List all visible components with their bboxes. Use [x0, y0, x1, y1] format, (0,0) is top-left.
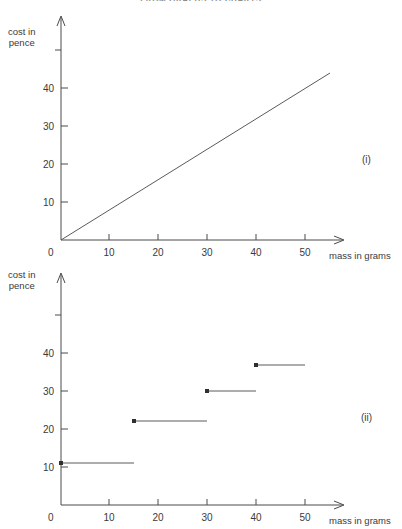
figure-ii-caption-label: (ii): [361, 412, 372, 423]
figure-ii-y-tick-label-30: 30: [43, 386, 55, 397]
figure-ii-step-point-2: [132, 419, 136, 423]
figure-ii-origin-label: 0: [48, 512, 54, 523]
figure-ii-step-point-4: [254, 363, 258, 367]
figure-i-x-tick-label-50: 50: [299, 247, 311, 258]
figure-i: cost in pence 10 20 30 40 0 10 20 30 40: [0, 0, 402, 265]
figure-ii-step-point-3: [205, 389, 209, 393]
figure-i-x-tick-label-30: 30: [201, 247, 213, 258]
figure-i-caption-label: (i): [362, 154, 371, 165]
figure-i-x-axis-title: mass in grams: [329, 250, 391, 261]
figure-ii-y-tick-label-10: 10: [43, 462, 55, 473]
figure-ii-y-tick-label-40: 40: [43, 348, 55, 359]
figure-i-x-tick-label-10: 10: [103, 247, 115, 258]
figure-ii-x-axis-title: mass in grams: [329, 515, 391, 526]
figure-i-y-tick-label-40: 40: [43, 83, 55, 94]
figure-ii-y-tick-label-20: 20: [43, 424, 55, 435]
figure-i-y-tick-label-30: 30: [43, 121, 55, 132]
figure-i-y-tick-label-10: 10: [43, 197, 55, 208]
figure-ii-plot: 10 20 30 40 0 10 20 30 40 50: [0, 264, 402, 529]
figure-i-data-line: [61, 73, 330, 240]
figure-i-origin-label: 0: [48, 247, 54, 258]
figure-ii-step-point-1: [59, 461, 63, 465]
figure-i-y-tick-label-20: 20: [43, 159, 55, 170]
figure-ii-x-tick-label-40: 40: [250, 512, 262, 523]
figure-ii-x-tick-label-10: 10: [103, 512, 115, 523]
figure-i-x-tick-label-40: 40: [250, 247, 262, 258]
figure-i-x-tick-label-20: 20: [152, 247, 164, 258]
figure-ii-x-tick-label-30: 30: [201, 512, 213, 523]
figure-ii-x-tick-label-50: 50: [299, 512, 311, 523]
figure-i-plot: 10 20 30 40 0 10 20 30 40 50: [0, 0, 402, 265]
figure-ii-x-tick-label-20: 20: [152, 512, 164, 523]
figure-ii: cost in pence 10 20 30 40 0 10 20 30 40: [0, 264, 402, 529]
